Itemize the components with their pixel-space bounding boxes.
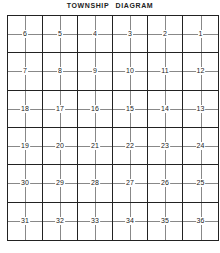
section-cell: 7 <box>8 53 43 90</box>
section-cell: 31 <box>8 203 43 240</box>
section-cell: 24 <box>183 128 218 165</box>
section-number: 7 <box>22 67 28 75</box>
section-number: 10 <box>125 67 135 75</box>
section-cell: 18 <box>8 91 43 128</box>
diagram-title: TOWNSHIP DIAGRAM <box>0 2 220 9</box>
section-cell: 28 <box>78 165 113 202</box>
section-number: 2 <box>162 30 168 38</box>
section-cell: 19 <box>8 128 43 165</box>
section-number: 22 <box>125 142 135 150</box>
section-number: 3 <box>127 30 133 38</box>
section-cell: 22 <box>113 128 148 165</box>
section-number: 15 <box>125 105 135 113</box>
section-number: 14 <box>160 105 170 113</box>
section-number: 27 <box>125 179 135 187</box>
section-cell: 15 <box>113 91 148 128</box>
section-number: 31 <box>20 217 30 225</box>
section-number: 16 <box>90 105 100 113</box>
section-cell: 4 <box>78 16 113 53</box>
section-cell: 10 <box>113 53 148 90</box>
section-number: 34 <box>125 217 135 225</box>
section-cell: 5 <box>43 16 78 53</box>
section-number: 24 <box>196 142 206 150</box>
section-cell: 33 <box>78 203 113 240</box>
section-cell: 32 <box>43 203 78 240</box>
section-cell: 6 <box>8 16 43 53</box>
section-cell: 9 <box>78 53 113 90</box>
section-number: 26 <box>160 179 170 187</box>
section-number: 4 <box>92 30 98 38</box>
section-cell: 13 <box>183 91 218 128</box>
section-number: 18 <box>20 105 30 113</box>
section-cell: 1 <box>183 16 218 53</box>
section-number: 19 <box>20 142 30 150</box>
section-number: 11 <box>160 67 169 75</box>
section-number: 29 <box>55 179 65 187</box>
section-number: 23 <box>160 142 170 150</box>
section-number: 5 <box>57 30 63 38</box>
section-cell: 30 <box>8 165 43 202</box>
section-cell: 8 <box>43 53 78 90</box>
section-number: 21 <box>90 142 100 150</box>
section-number: 8 <box>57 67 63 75</box>
section-cell: 25 <box>183 165 218 202</box>
section-cell: 27 <box>113 165 148 202</box>
section-cell: 3 <box>113 16 148 53</box>
section-cell: 16 <box>78 91 113 128</box>
section-cell: 20 <box>43 128 78 165</box>
section-number: 20 <box>55 142 65 150</box>
section-cell: 26 <box>148 165 183 202</box>
section-cell: 23 <box>148 128 183 165</box>
section-cell: 12 <box>183 53 218 90</box>
section-cell: 21 <box>78 128 113 165</box>
section-cell: 34 <box>113 203 148 240</box>
section-number: 12 <box>196 67 206 75</box>
section-number: 28 <box>90 179 100 187</box>
section-cell: 2 <box>148 16 183 53</box>
section-cell: 36 <box>183 203 218 240</box>
section-number: 25 <box>196 179 206 187</box>
section-number: 33 <box>90 217 100 225</box>
section-cell: 35 <box>148 203 183 240</box>
section-number: 35 <box>160 217 170 225</box>
section-number: 6 <box>22 30 28 38</box>
section-cell: 17 <box>43 91 78 128</box>
section-number: 30 <box>20 179 30 187</box>
section-cell: 14 <box>148 91 183 128</box>
section-cell: 29 <box>43 165 78 202</box>
township-grid: 6 5 4 3 2 1 7 8 9 10 11 12 18 17 16 15 1… <box>7 15 219 241</box>
section-number: 36 <box>196 217 206 225</box>
section-number: 17 <box>55 105 65 113</box>
section-number: 32 <box>55 217 65 225</box>
section-number: 1 <box>198 30 204 38</box>
section-number: 13 <box>196 105 206 113</box>
section-cell: 11 <box>148 53 183 90</box>
section-number: 9 <box>92 67 98 75</box>
